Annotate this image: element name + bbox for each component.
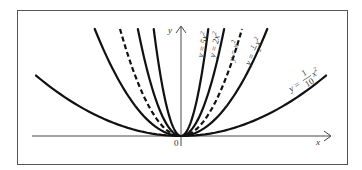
origin-label: 0 <box>174 138 179 148</box>
x-axis-label: x <box>315 137 320 147</box>
svg-text:1: 1 <box>299 67 308 78</box>
svg-text:y=: y= <box>286 79 302 95</box>
y-axis-label: y <box>167 25 172 35</box>
svg-text:y=: y= <box>242 52 257 68</box>
parabola-diagram: x y 0 y=5x2 y=2x2 y=x2 y= 1 2 x2 y= 1 10… <box>0 0 362 170</box>
